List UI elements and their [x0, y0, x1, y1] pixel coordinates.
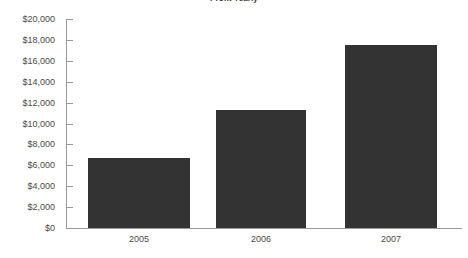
- y-axis-tick: [66, 228, 73, 229]
- y-axis-tick-label: $4,000: [27, 181, 55, 191]
- x-axis-label-2006: 2006: [251, 234, 271, 244]
- x-axis-label-2007: 2007: [381, 234, 401, 244]
- bar-2007: [345, 45, 437, 228]
- y-axis-tick-label: $14,000: [22, 77, 55, 87]
- y-axis-tick-label: $18,000: [22, 35, 55, 45]
- x-axis-line: [66, 228, 462, 229]
- bar-2005: [88, 158, 190, 228]
- y-axis-tick-label: $8,000: [27, 139, 55, 149]
- y-axis-tick-label: $6,000: [27, 160, 55, 170]
- y-axis-tick-label: $20,000: [22, 14, 55, 24]
- y-axis-tick-label: $16,000: [22, 56, 55, 66]
- bar-2006: [216, 110, 306, 228]
- y-axis-tick-label: $2,000: [27, 202, 55, 212]
- y-axis-tick-label: $12,000: [22, 98, 55, 108]
- x-axis-label-2005: 2005: [129, 234, 149, 244]
- y-axis-tick-label: $0: [45, 223, 55, 233]
- plot-area: [66, 19, 462, 228]
- bar-chart: Profit Yearly $0$2,000$4,000$6,000$8,000…: [0, 0, 468, 258]
- chart-title: Profit Yearly: [0, 0, 468, 3]
- y-axis-tick-label: $10,000: [22, 119, 55, 129]
